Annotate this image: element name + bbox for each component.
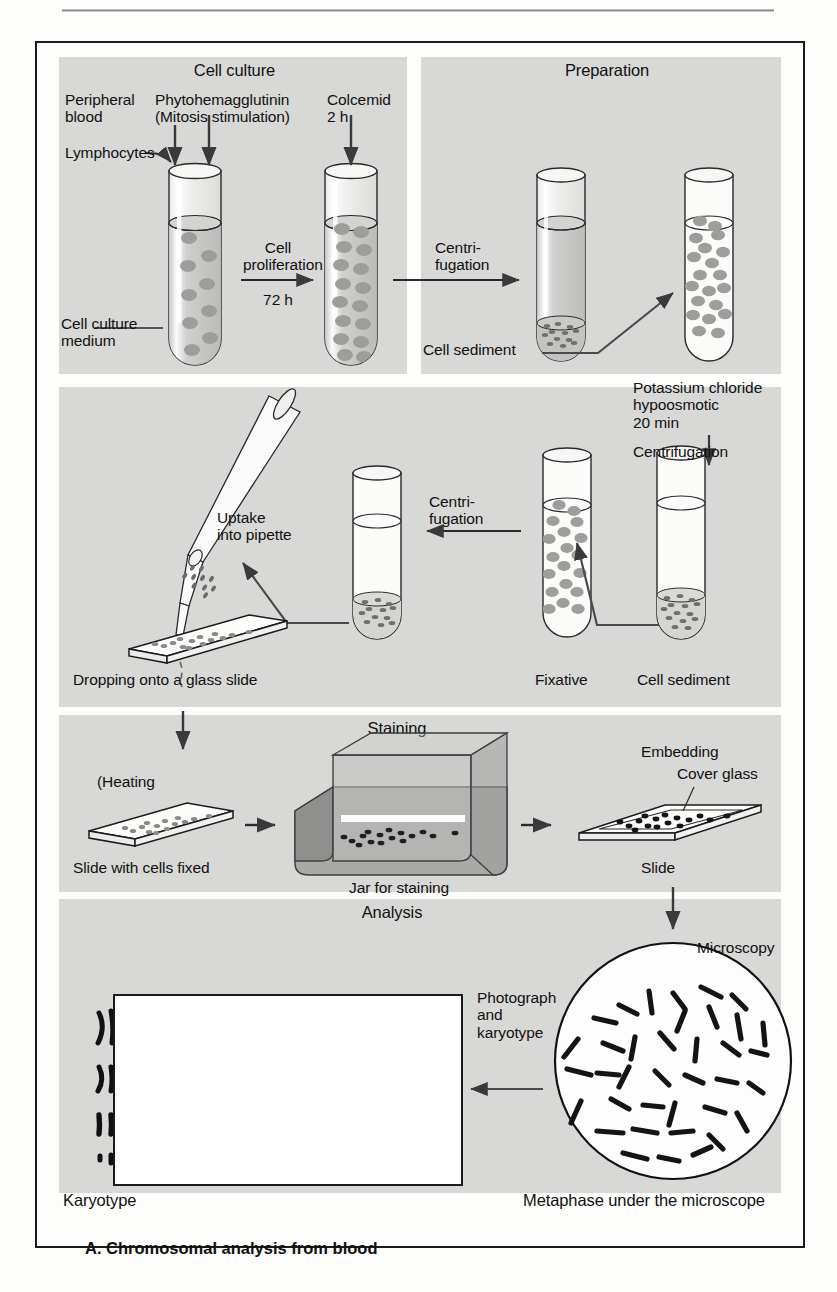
label-jar-for-staining: Jar for staining xyxy=(349,879,449,896)
label-uptake-into-pipette: Uptake into pipette xyxy=(217,509,292,544)
tube-sediment-1 xyxy=(537,168,585,361)
slide-dropping xyxy=(129,615,287,663)
tube-pellet xyxy=(353,466,401,639)
staining-jar xyxy=(295,733,507,875)
label-cell-sediment-1: Cell sediment xyxy=(423,341,516,358)
label-slide: Slide xyxy=(641,859,675,876)
karyotype-box xyxy=(113,994,463,1186)
label-photograph-karyotype: Photograph and karyotype xyxy=(477,989,556,1041)
label-centrifugation-3: Centri- fugation xyxy=(429,493,483,528)
figure-page: Cell culture Preparation Staining Analys… xyxy=(0,0,837,1292)
tube-fixative xyxy=(542,448,591,637)
label-karyotype: Karyotype xyxy=(63,1191,136,1209)
tube-culture-2 xyxy=(325,164,377,366)
label-centrifugation-2: Centrifugation xyxy=(633,443,728,460)
label-peripheral-blood: Peripheral blood xyxy=(65,91,135,126)
figure-frame: Cell culture Preparation Staining Analys… xyxy=(35,41,805,1248)
slide-embedded xyxy=(579,787,761,840)
label-cell-culture-medium: Cell culture medium xyxy=(61,315,137,350)
label-heating: (Heating xyxy=(97,773,155,790)
label-cell-proliferation: Cell proliferation xyxy=(243,239,313,274)
metaphase-circle xyxy=(555,943,791,1179)
slide-fixed xyxy=(89,803,233,846)
arrow-pellet-to-slide xyxy=(243,563,349,623)
label-metaphase: Metaphase under the microscope xyxy=(523,1191,765,1209)
label-microscopy: Microscopy xyxy=(697,939,774,956)
tube-culture-1 xyxy=(169,164,221,366)
label-72h: 72 h xyxy=(243,291,313,308)
label-dropping-onto-slide: Dropping onto a glass slide xyxy=(73,671,257,688)
label-centrifugation-1: Centri- fugation xyxy=(435,239,489,274)
figure-caption: A. Chromosomal analysis from blood xyxy=(85,1239,377,1258)
top-rule xyxy=(62,9,774,12)
label-cover-glass: Cover glass xyxy=(677,765,758,782)
tube-kcl xyxy=(685,168,733,361)
label-phytohemagglutinin: Phytohemagglutinin (Mitosis stimulation) xyxy=(155,91,290,126)
label-colcemid: Colcemid 2 h xyxy=(327,91,391,126)
tube-sediment-2 xyxy=(657,446,705,639)
label-slide-with-cells-fixed: Slide with cells fixed xyxy=(73,859,210,876)
label-fixative: Fixative xyxy=(535,671,588,688)
label-cell-sediment-2: Cell sediment xyxy=(637,671,730,688)
label-lymphocytes: Lymphocytes xyxy=(65,144,155,161)
label-potassium-chloride: Potassium chloride hypoosmotic 20 min xyxy=(633,379,762,431)
label-embedding: Embedding xyxy=(641,743,719,760)
